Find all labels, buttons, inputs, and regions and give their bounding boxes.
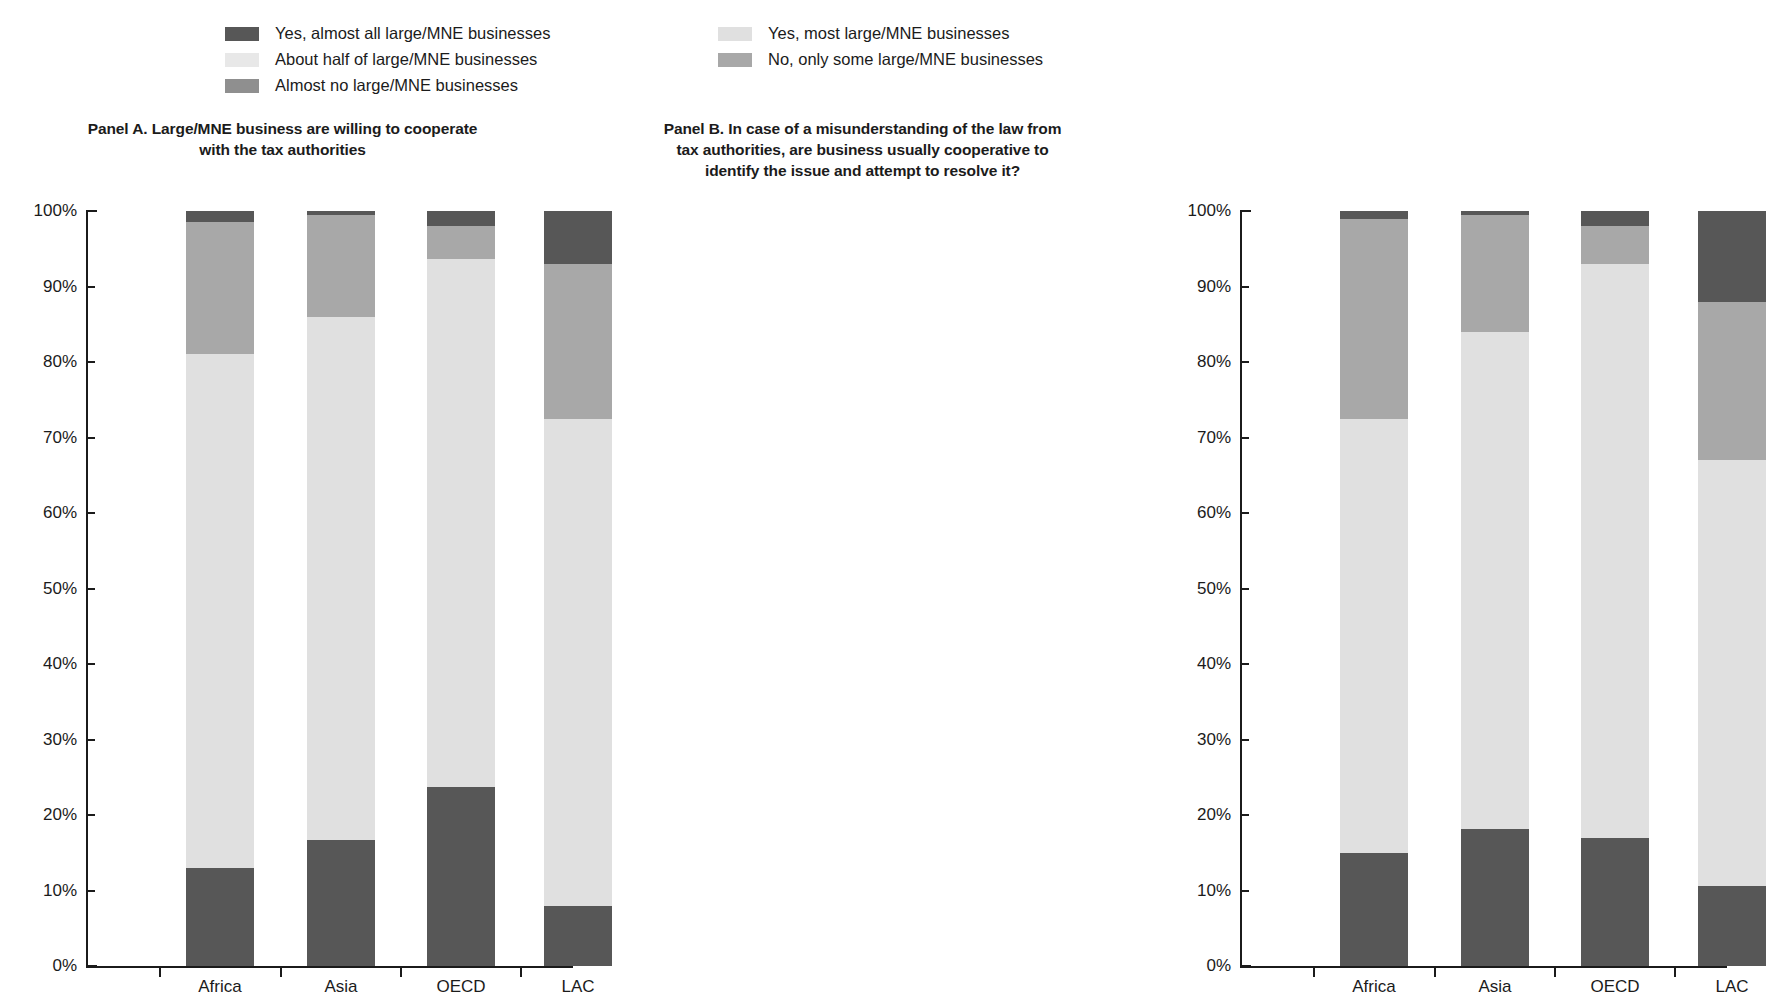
panel-b-y-tick-40: [1240, 663, 1249, 665]
panel-a-bar-oecd: [427, 211, 495, 966]
panel-b-y-tick-70: [1240, 437, 1249, 439]
panel-b-bar-lac: [1698, 211, 1766, 966]
panel-b-y-tick-label-70: 70%: [1197, 428, 1231, 448]
panel-b-y-tick-50: [1240, 588, 1249, 590]
panel-a-y-tick-label-90: 90%: [43, 277, 77, 297]
panel-b-segment: [1581, 211, 1649, 226]
panel-a-y-tick-label-10: 10%: [43, 881, 77, 901]
panel-a-y-tick-label-50: 50%: [43, 579, 77, 599]
panel-a-y-tick-80: [86, 361, 95, 363]
panel-a-y-tick-label-80: 80%: [43, 352, 77, 372]
panel-a-y-tick-100: [86, 210, 97, 212]
panel-b-x-tick-1: [1434, 966, 1436, 977]
panel-b-y-tick-label-60: 60%: [1197, 503, 1231, 523]
panel-b-segment: [1581, 264, 1649, 838]
panel-b-x-label-oecd: OECD: [1590, 977, 1639, 996]
panel-a-segment: [186, 222, 254, 354]
panel-a-y-tick-30: [86, 739, 95, 741]
panel-a-y-tick-label-30: 30%: [43, 730, 77, 750]
panel-b-y-tick-60: [1240, 512, 1249, 514]
panel-b-segment: [1340, 219, 1408, 419]
panel-b-segment: [1581, 838, 1649, 966]
panel-a-y-tick-label-60: 60%: [43, 503, 77, 523]
panel-b-title-line1: Panel B. In case of a misunderstanding o…: [580, 118, 1145, 139]
panel-b-y-tick-label-40: 40%: [1197, 654, 1231, 674]
panel-b-segment: [1340, 853, 1408, 966]
panel-a-x-tick-1: [280, 966, 282, 977]
panel-b-bar-africa: [1340, 211, 1408, 966]
panel-b-y-tick-100: [1240, 210, 1251, 212]
panel-b-x-label-lac: LAC: [1715, 977, 1748, 996]
panel-a-x-label-africa: Africa: [198, 977, 241, 996]
panel-b-x-tick-2: [1554, 966, 1556, 977]
panel-a-y-tick-10: [86, 890, 95, 892]
panel-a-y-tick-label-0: 0%: [52, 956, 77, 976]
panel-b-x-tick-0: [1313, 966, 1315, 977]
panel-b-y-tick-20: [1240, 814, 1249, 816]
panel-b-segment: [1698, 302, 1766, 461]
panel-a-title-line2: with the tax authorities: [0, 139, 565, 160]
panel-a-segment: [186, 868, 254, 966]
panel-a-y-tick-50: [86, 588, 95, 590]
panel-a-y-tick-label-20: 20%: [43, 805, 77, 825]
panel-b-segment: [1340, 419, 1408, 853]
panel-b-y-tick-label-80: 80%: [1197, 352, 1231, 372]
panel-b-y-tick-label-10: 10%: [1197, 881, 1231, 901]
panel-b-x-label-asia: Asia: [1478, 977, 1511, 996]
panel-a-x-label-oecd: OECD: [436, 977, 485, 996]
panel-a-segment: [186, 211, 254, 222]
panel-b-y-tick-30: [1240, 739, 1249, 741]
panel-a-x-tick-0: [159, 966, 161, 977]
panel-b: Panel B. In case of a misunderstanding o…: [580, 0, 1161, 996]
panel-b-segment: [1698, 460, 1766, 886]
panel-a-y-tick-label-100: 100%: [34, 201, 77, 221]
panel-a-title-line1: Panel A. Large/MNE business are willing …: [0, 118, 565, 139]
panel-a-segment: [427, 226, 495, 258]
panel-b-segment: [1461, 332, 1529, 829]
panel-b-y-tick-10: [1240, 890, 1249, 892]
panel-b-segment: [1698, 211, 1766, 302]
panel-a-segment: [427, 211, 495, 226]
panel-a-y-tick-label-70: 70%: [43, 428, 77, 448]
panel-a-bar-asia: [307, 211, 375, 966]
panel-b-segment: [1461, 215, 1529, 332]
panel-a: Panel A. Large/MNE business are willing …: [0, 0, 580, 996]
panel-b-title-line3: identify the issue and attempt to resolv…: [580, 160, 1145, 181]
panel-a-bar-africa: [186, 211, 254, 966]
panel-b-y-tick-90: [1240, 286, 1249, 288]
panel-a-y-tick-60: [86, 512, 95, 514]
panel-b-plot-area: 100%90%80%70%60%50%40%30%20%10%0%AfricaA…: [1240, 211, 1727, 966]
panel-b-x-label-africa: Africa: [1352, 977, 1395, 996]
panel-b-segment: [1461, 829, 1529, 966]
panel-b-y-tick-label-20: 20%: [1197, 805, 1231, 825]
panel-b-y-tick-label-50: 50%: [1197, 579, 1231, 599]
panel-b-bar-oecd: [1581, 211, 1649, 966]
panel-a-x-label-asia: Asia: [324, 977, 357, 996]
panel-a-y-tick-label-40: 40%: [43, 654, 77, 674]
panel-a-segment: [307, 215, 375, 317]
panel-a-segment: [307, 840, 375, 966]
panel-b-segment: [1340, 211, 1408, 219]
panel-b-y-tick-0: [1240, 965, 1251, 967]
panel-a-title: Panel A. Large/MNE business are willing …: [0, 118, 565, 160]
panel-a-segment: [186, 354, 254, 867]
panel-b-y-tick-label-100: 100%: [1188, 201, 1231, 221]
panel-b-y-tick-label-0: 0%: [1206, 956, 1231, 976]
panel-b-segment: [1581, 226, 1649, 264]
panel-b-title: Panel B. In case of a misunderstanding o…: [580, 118, 1145, 181]
panel-a-x-tick-2: [400, 966, 402, 977]
panel-b-y-tick-label-30: 30%: [1197, 730, 1231, 750]
panel-b-x-tick-3: [1674, 966, 1676, 977]
panel-a-y-tick-40: [86, 663, 95, 665]
panel-a-segment: [427, 259, 495, 788]
panel-a-y-tick-0: [86, 965, 97, 967]
panel-b-segment: [1698, 886, 1766, 966]
panel-a-y-tick-90: [86, 286, 95, 288]
panel-a-y-tick-20: [86, 814, 95, 816]
panel-b-y-tick-label-90: 90%: [1197, 277, 1231, 297]
panel-a-segment: [427, 787, 495, 966]
panel-a-y-tick-70: [86, 437, 95, 439]
panel-a-segment: [307, 317, 375, 840]
panel-b-y-tick-80: [1240, 361, 1249, 363]
panel-b-title-line2: tax authorities, are business usually co…: [580, 139, 1145, 160]
